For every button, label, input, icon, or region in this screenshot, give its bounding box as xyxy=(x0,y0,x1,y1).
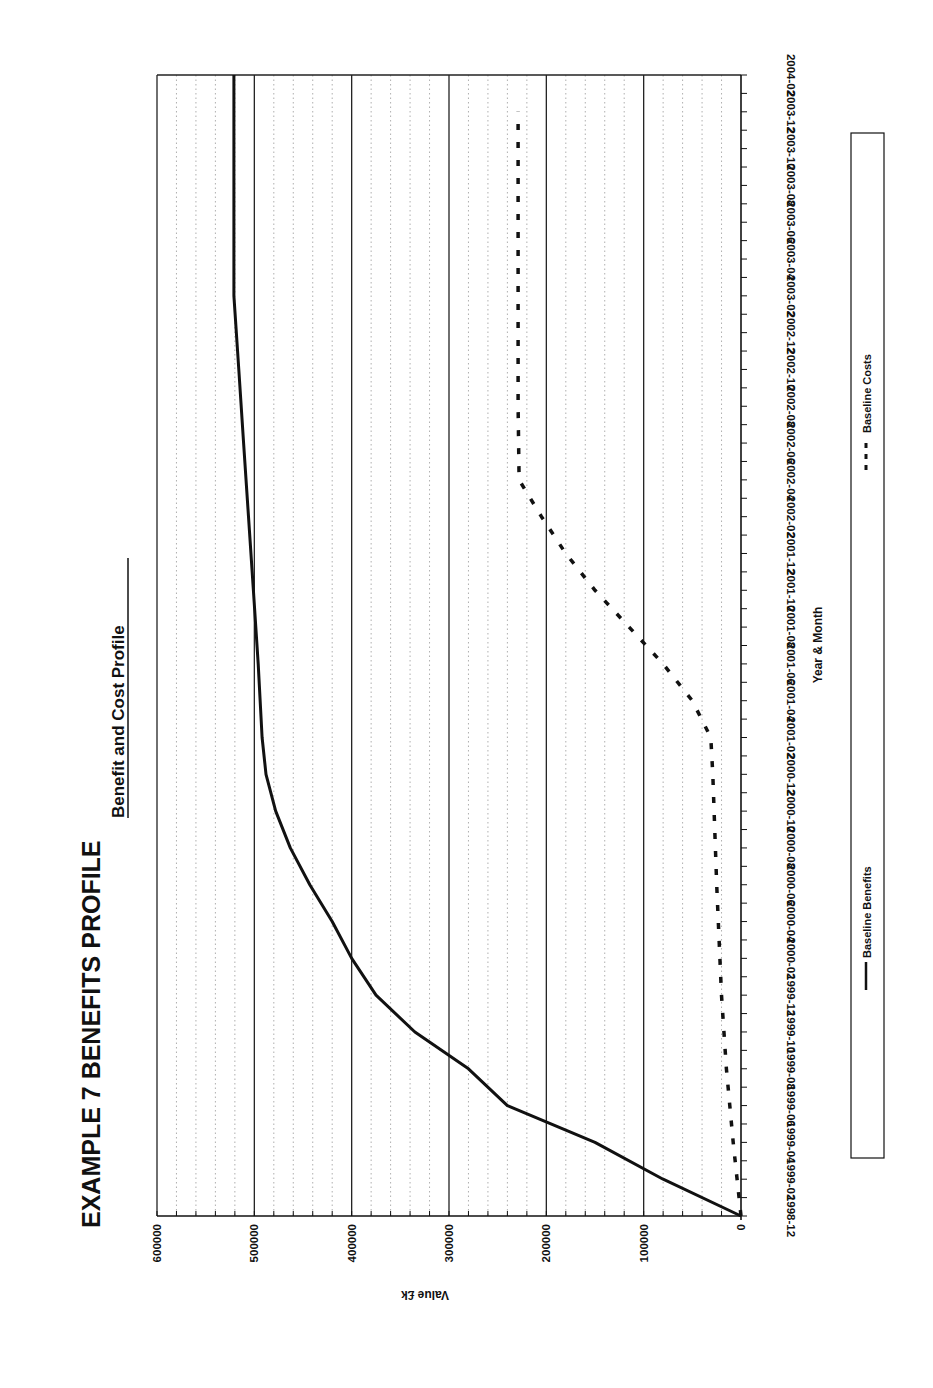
x-tick-label: 1999-02 xyxy=(785,1158,797,1200)
plot-series xyxy=(234,75,741,1216)
y-tick-label: 300000 xyxy=(443,1224,455,1262)
x-tick-label: 2003-10 xyxy=(785,128,797,170)
x-tick-label: 2003-04 xyxy=(785,238,797,281)
chart-title: Benefit and Cost Profile xyxy=(109,625,128,818)
x-tick-label: 2001-02 xyxy=(785,716,797,758)
x-tick-label: 2001-08 xyxy=(785,606,797,649)
y-axis-label: Value £k xyxy=(401,1288,449,1302)
x-tick-label: 2002-04 xyxy=(785,459,797,502)
y-tick-label: 0 xyxy=(735,1224,747,1230)
x-tick-label: 2002-02 xyxy=(785,496,797,538)
y-tick-label: 400000 xyxy=(346,1224,358,1262)
y-tick-label: 600000 xyxy=(151,1224,163,1262)
x-tick-label: 1998-12 xyxy=(785,1195,797,1237)
x-tick-label: 2001-04 xyxy=(785,680,797,723)
x-tick-label: 2002-10 xyxy=(785,348,797,390)
plot-grid xyxy=(157,75,741,1216)
x-tick-label: 2002-12 xyxy=(785,312,797,354)
x-tick-label: 1999-12 xyxy=(785,974,797,1016)
x-tick-label: 2002-08 xyxy=(785,385,797,428)
x-tick-label: 2000-08 xyxy=(785,827,797,870)
y-tick-label: 500000 xyxy=(248,1224,260,1262)
legend: Baseline Benefits Baseline Costs xyxy=(851,133,884,1158)
x-tick-label: 2001-12 xyxy=(785,532,797,574)
x-tick-label: 1999-04 xyxy=(785,1121,797,1164)
legend-label-benefits: Baseline Benefits xyxy=(861,866,873,958)
x-tick-label: 2001-06 xyxy=(785,643,797,685)
x-tick-label: 2000-04 xyxy=(785,900,797,943)
y-tick-label: 200000 xyxy=(540,1224,552,1262)
x-tick-label: 2003-12 xyxy=(785,91,797,133)
x-tick-label: 2000-12 xyxy=(785,753,797,795)
y-tick-label: 100000 xyxy=(638,1224,650,1262)
x-tick-label: 1999-08 xyxy=(785,1048,797,1091)
series-baseline-costs xyxy=(518,112,741,1216)
legend-label-costs: Baseline Costs xyxy=(861,354,873,433)
x-tick-label: 2003-06 xyxy=(785,201,797,243)
series-baseline-benefits xyxy=(234,75,741,1216)
x-axis-label: Year & Month xyxy=(811,607,825,684)
x-tick-label: 2003-02 xyxy=(785,275,797,317)
x-tick-label: 2001-10 xyxy=(785,569,797,611)
x-tick-label: 2004-02 xyxy=(785,54,797,96)
x-tick-label: 2000-06 xyxy=(785,864,797,906)
x-tick-label: 2002-06 xyxy=(785,422,797,464)
x-tick-label: 2000-10 xyxy=(785,790,797,832)
chart-figure: EXAMPLE 7 BENEFITS PROFILE Benefit and C… xyxy=(0,0,933,1388)
page-heading: EXAMPLE 7 BENEFITS PROFILE xyxy=(77,840,105,1228)
plot-axes: 0100000200000300000400000500000600000199… xyxy=(151,54,797,1262)
x-tick-label: 1999-06 xyxy=(785,1084,797,1126)
x-tick-label: 2000-02 xyxy=(785,937,797,979)
x-tick-label: 2003-08 xyxy=(785,164,797,207)
x-tick-label: 1999-10 xyxy=(785,1011,797,1053)
